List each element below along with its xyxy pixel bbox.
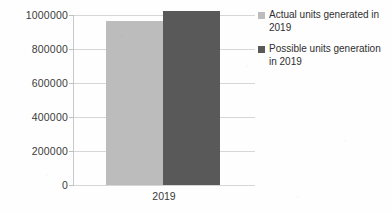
legend-label: Possible units generation in 2019 — [269, 43, 390, 68]
tick-mark — [69, 117, 74, 118]
x-axis-category-label: 2019 — [73, 190, 255, 202]
bar-chart: 1000000 800000 600000 400000 200000 0 20… — [0, 0, 392, 214]
plot-area — [73, 15, 255, 185]
bar-actual-units — [106, 21, 163, 185]
y-tick-label: 200000 — [0, 145, 68, 157]
y-axis-labels: 1000000 800000 600000 400000 200000 0 — [0, 0, 68, 214]
bar-possible-units — [163, 11, 220, 185]
y-tick-label: 400000 — [0, 111, 68, 123]
legend-label: Actual units generated in 2019 — [269, 9, 390, 34]
legend-swatch-icon — [258, 46, 265, 53]
y-tick-label: 800000 — [0, 43, 68, 55]
tick-mark — [69, 49, 74, 50]
chart-legend: Actual units generated in 2019 Possible … — [258, 9, 390, 77]
y-tick-label: 1000000 — [0, 9, 68, 21]
gridline — [73, 185, 255, 186]
y-tick-label: 600000 — [0, 77, 68, 89]
tick-mark — [69, 83, 74, 84]
tick-mark — [69, 151, 74, 152]
legend-swatch-icon — [258, 12, 265, 19]
legend-item-possible[interactable]: Possible units generation in 2019 — [258, 43, 390, 68]
tick-mark — [69, 185, 74, 186]
y-tick-label: 0 — [0, 179, 68, 191]
legend-item-actual[interactable]: Actual units generated in 2019 — [258, 9, 390, 34]
tick-mark — [69, 15, 74, 16]
